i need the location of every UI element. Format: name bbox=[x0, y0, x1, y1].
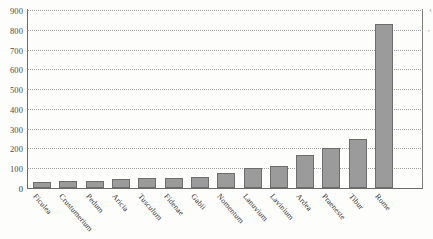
x-tick-label-tibur: Tibur bbox=[347, 192, 365, 211]
y-tick-label: 100 bbox=[10, 164, 23, 174]
chart-page: 9008007006005004003002001000 FiculeaCrus… bbox=[0, 0, 433, 239]
plot-area: 9008007006005004003002001000 bbox=[27, 10, 423, 188]
bar-rome bbox=[375, 24, 393, 188]
x-tick-label-pedum: Pedum bbox=[84, 192, 106, 215]
bar-slot bbox=[266, 10, 292, 188]
y-tick-label: 300 bbox=[10, 124, 23, 134]
bar-slot bbox=[371, 10, 397, 188]
x-tick-label-ficulea: Ficulea bbox=[31, 192, 54, 216]
bar-group bbox=[27, 10, 423, 188]
x-label-slot: Fidenae bbox=[160, 190, 186, 239]
x-tick-label-ardea: Ardea bbox=[294, 192, 314, 213]
bar-slot bbox=[82, 10, 108, 188]
x-tick-label-aricia: Aricia bbox=[110, 192, 130, 213]
bar-slot bbox=[187, 10, 213, 188]
scan-artifact-icon: ‹ bbox=[429, 4, 432, 14]
bar-slot bbox=[318, 10, 344, 188]
x-label-slot: Lanuvium bbox=[239, 190, 265, 239]
bar-slot bbox=[29, 10, 55, 188]
x-label-slot: Tusculum bbox=[134, 190, 160, 239]
bar-slot bbox=[213, 10, 239, 188]
x-label-slot: Praeneste bbox=[318, 190, 344, 239]
bar-praeneste bbox=[322, 148, 340, 188]
y-tick-label: 800 bbox=[10, 26, 23, 36]
y-tick-label: 500 bbox=[10, 85, 23, 95]
x-label-slot: Tibur bbox=[345, 190, 371, 239]
x-label-slot: Ficulea bbox=[29, 190, 55, 239]
y-tick-label: 400 bbox=[10, 105, 23, 115]
bar-nomentum bbox=[217, 173, 235, 188]
y-tick-label: 0 bbox=[19, 184, 23, 194]
x-label-slot: Lavinium bbox=[266, 190, 292, 239]
bar-fidenae bbox=[165, 178, 183, 188]
bar-slot bbox=[292, 10, 318, 188]
scan-artifact-icon: ′ bbox=[428, 28, 430, 38]
bar-slot bbox=[345, 10, 371, 188]
x-axis-labels: FiculeaCrustumeriumPedumAriciaTusculumFi… bbox=[27, 190, 423, 239]
bar-aricia bbox=[112, 179, 130, 188]
bar-gabii bbox=[191, 177, 209, 188]
bar-lavinium bbox=[270, 166, 288, 188]
x-label-slot: Rome bbox=[371, 190, 397, 239]
bar-lanuvium bbox=[244, 168, 262, 188]
x-label-slot: Aricia bbox=[108, 190, 134, 239]
y-tick-label: 600 bbox=[10, 65, 23, 75]
y-tick-label: 200 bbox=[10, 144, 23, 154]
gridline-0: 0 bbox=[27, 188, 423, 189]
bar-slot bbox=[55, 10, 81, 188]
x-label-slot: Crustumerium bbox=[55, 190, 81, 239]
bar-ficulea bbox=[33, 182, 51, 188]
x-tick-label-gabii: Gabii bbox=[189, 192, 208, 212]
bar-tusculum bbox=[138, 178, 156, 188]
bar-pedum bbox=[86, 181, 104, 188]
x-label-slot: Ardea bbox=[292, 190, 318, 239]
x-label-slot: Gabii bbox=[187, 190, 213, 239]
x-label-slot: Pedum bbox=[82, 190, 108, 239]
x-tick-label-rome: Rome bbox=[373, 192, 392, 212]
bar-tibur bbox=[349, 139, 367, 188]
bar-slot bbox=[239, 10, 265, 188]
bar-crustumerium bbox=[59, 181, 77, 188]
bar-slot bbox=[108, 10, 134, 188]
x-label-slot: Nomentum bbox=[213, 190, 239, 239]
x-tick-label-fidenae: Fidenae bbox=[163, 192, 187, 217]
y-tick-label: 700 bbox=[10, 45, 23, 55]
y-tick-label: 900 bbox=[10, 6, 23, 16]
bar-ardea bbox=[296, 155, 314, 188]
bar-slot bbox=[160, 10, 186, 188]
bar-slot bbox=[134, 10, 160, 188]
